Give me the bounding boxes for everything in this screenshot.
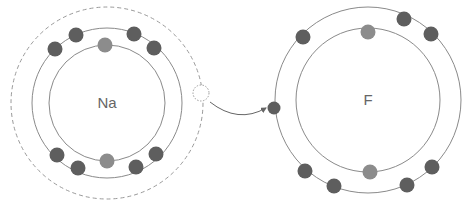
ionic-bond-diagram: Na F [0, 0, 467, 202]
outer-electron [50, 148, 65, 163]
outer-electron [48, 42, 63, 57]
outer-electron [127, 27, 142, 42]
outer-electron [400, 178, 415, 193]
outer-electron [327, 179, 342, 194]
inner-electron [363, 165, 378, 180]
outer-electron [147, 41, 162, 56]
sodium-label: Na [97, 94, 117, 111]
outer-electron [149, 147, 164, 162]
outer-electron [397, 12, 412, 27]
inner-electron [100, 154, 115, 169]
inner-electron [98, 38, 113, 53]
outer-electron [298, 164, 313, 179]
outer-electron [296, 30, 311, 45]
outer-electron [425, 160, 440, 175]
transferred-electron [268, 102, 281, 115]
vacated-electron-position [193, 85, 209, 101]
outer-electron [71, 161, 86, 176]
outer-electron [69, 28, 84, 43]
fluorine-label: F [363, 91, 372, 108]
outer-electron [129, 160, 144, 175]
outer-electron [424, 27, 439, 42]
inner-electron [361, 25, 376, 40]
electron-transfer-arrow [210, 102, 266, 115]
